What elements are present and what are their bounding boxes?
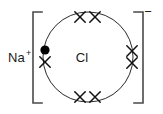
- cation-charge-label: +: [26, 48, 31, 58]
- diagram-canvas: Na + Cl −: [0, 0, 163, 114]
- electron-cross: [75, 92, 85, 102]
- anion-symbol-label: Cl: [76, 50, 88, 65]
- bracket-right: [134, 12, 143, 103]
- electron-cross: [40, 57, 50, 67]
- anion-charge-label: −: [144, 4, 152, 19]
- electron-cross: [75, 12, 85, 22]
- electron-cross: [90, 12, 100, 22]
- electron-dot: [40, 45, 49, 54]
- electron-layer: [40, 12, 137, 102]
- electron-cross: [90, 92, 100, 102]
- cation-symbol-label: Na: [8, 50, 25, 65]
- ionic-bonding-diagram: Na + Cl −: [0, 0, 163, 114]
